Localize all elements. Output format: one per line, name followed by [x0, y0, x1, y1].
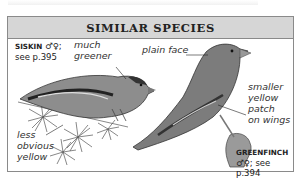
siskin-label: SISKIN ♂♀; see p.395 [15, 41, 62, 62]
annotation-plain-face: plain face [142, 44, 188, 55]
annotation-much-greener: muchgreener [74, 39, 111, 61]
siskin-name: SISKIN [15, 42, 42, 51]
annotation-less-obvious-yellow: lessobviousyellow [17, 129, 54, 162]
cropped-text-strip [8, 0, 258, 5]
greenfinch-sex-symbols: ♂♀; [236, 158, 253, 168]
siskin-page-ref: see p.395 [15, 52, 57, 62]
siskin-sex-symbols: ♂♀; [45, 41, 62, 51]
greenfinch-label: GREENFINCH ♂♀; see p.394 [236, 147, 293, 178]
similar-species-panel: SIMILAR SPECIES [7, 16, 294, 172]
siskin-bird-icon [20, 75, 156, 121]
annotation-smaller-yellow-patch: smalleryellowpatchon wings [248, 81, 290, 125]
greenfinch-name: GREENFINCH [236, 148, 288, 157]
